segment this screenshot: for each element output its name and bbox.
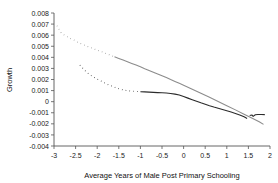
series-nonparametric-fit-tail [250, 115, 265, 117]
chart-plot-area: -3-2.5-2-1.5-1-0.500.511.52 0.0080.0070.… [0, 0, 278, 183]
x-tick-label: -2.5 [70, 152, 82, 159]
y-tick-label: 0.008 [31, 10, 49, 17]
x-tick-label: 0.5 [200, 152, 210, 159]
y-tick-label: 0.004 [31, 54, 49, 61]
y-tick-label: 0.003 [31, 65, 49, 72]
x-tick-label: 2 [268, 152, 272, 159]
x-tick-label: 1.5 [244, 152, 254, 159]
y-tick-label: 0.006 [31, 32, 49, 39]
series-nonparametric-fit-dotted-segment [80, 65, 140, 92]
y-axis-title: Growth [5, 68, 14, 92]
y-tick-label: -0.004 [29, 143, 49, 150]
data-series [57, 26, 265, 125]
y-tick-label: 0.001 [31, 87, 49, 94]
y-tick-label: 0 [45, 98, 49, 105]
x-tick-label: -2 [94, 152, 100, 159]
series-nonparametric-fit-line [140, 92, 247, 119]
y-tick-label: -0.002 [29, 120, 49, 127]
y-tick-label: 0.005 [31, 43, 49, 50]
y-tick-labels: 0.0080.0070.0060.0050.0040.0030.0020.001… [29, 10, 49, 150]
y-tick-label: -0.001 [29, 109, 49, 116]
x-tick-label: 1 [225, 152, 229, 159]
x-tick-labels: -3-2.5-2-1.5-1-0.500.511.52 [51, 152, 272, 159]
x-tick-label: -0.5 [156, 152, 168, 159]
x-axis-title: Average Years of Male Post Primary Schoo… [84, 171, 239, 180]
series-linear-fit-dotted-segment [57, 26, 114, 57]
x-tick-label: 0 [182, 152, 186, 159]
series-linear-fit-line [114, 57, 263, 125]
x-tick-label: -1.5 [113, 152, 125, 159]
axes [51, 13, 270, 149]
y-tick-label: -0.003 [29, 132, 49, 139]
x-tick-label: -1 [137, 152, 143, 159]
x-tick-label: -3 [51, 152, 57, 159]
growth-schooling-chart: -3-2.5-2-1.5-1-0.500.511.52 0.0080.0070.… [0, 0, 278, 183]
y-tick-label: 0.007 [31, 21, 49, 28]
y-tick-label: 0.002 [31, 76, 49, 83]
